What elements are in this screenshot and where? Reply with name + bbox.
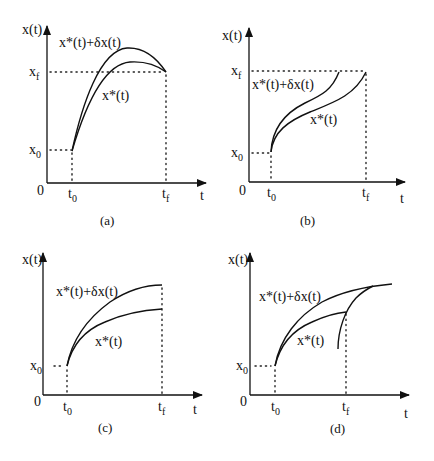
- perturbed-trajectory-label: x*(t)+δx(t): [56, 284, 118, 300]
- tf-label: tf: [342, 399, 350, 417]
- y-axis-label: x(t): [228, 252, 249, 268]
- origin-label: 0: [239, 183, 246, 198]
- y-axis-label: x(t): [222, 28, 243, 44]
- optimal-trajectory-label: x*(t): [297, 333, 325, 349]
- x-axis-label: t: [404, 406, 408, 421]
- panel-caption: (b): [300, 213, 315, 228]
- t0-label: t0: [68, 186, 77, 204]
- optimal-trajectory-label: x*(t): [310, 112, 338, 128]
- x0-label: x0: [231, 145, 243, 163]
- panel-caption: (a): [100, 213, 114, 228]
- xf-label: xf: [231, 63, 242, 81]
- t0-label: t0: [267, 185, 276, 203]
- tf-label: tf: [362, 185, 370, 203]
- panel-d: x(t) t 0 x0 t0 tf x*(t)+δx(t) x*(t) (d): [228, 252, 409, 436]
- panel-b: x(t) t 0 x0 xf t0 tf x*(t)+δx(t) x*(t) (…: [222, 28, 405, 228]
- t0-label: t0: [63, 399, 72, 417]
- panel-a: x(t) t 0 x0 xf t0 tf x*(t)+δx(t) x*(t) (…: [22, 22, 206, 228]
- optimal-trajectory: [72, 62, 166, 151]
- tf-label: tf: [158, 399, 166, 417]
- tf-label: tf: [162, 186, 170, 204]
- perturbed-trajectory-label: x*(t)+δx(t): [252, 77, 314, 93]
- y-axis-label: x(t): [22, 22, 43, 38]
- y-axis-label: x(t): [22, 252, 43, 268]
- origin-label: 0: [34, 394, 41, 409]
- perturbed-trajectory-label: x*(t)+δx(t): [59, 35, 121, 51]
- x0-label: x0: [29, 142, 41, 160]
- x0-label: x0: [236, 358, 248, 376]
- origin-label: 0: [37, 183, 44, 198]
- x-axis-label: t: [193, 402, 197, 417]
- t0-label: t0: [271, 399, 280, 417]
- origin-label: 0: [240, 394, 247, 409]
- panel-caption: (d): [330, 421, 345, 436]
- x-axis-label: t: [200, 188, 204, 203]
- figure-canvas: x(t) t 0 x0 xf t0 tf x*(t)+δx(t) x*(t) (…: [0, 0, 434, 461]
- panel-caption: (c): [98, 420, 112, 435]
- panel-c: x(t) t 0 x0 t0 tf x*(t)+δx(t) x*(t) (c): [22, 252, 202, 435]
- xf-label: xf: [29, 64, 40, 82]
- terminal-curve: [338, 286, 373, 349]
- x-axis-label: t: [400, 191, 404, 206]
- perturbed-trajectory-label: x*(t)+δx(t): [259, 289, 321, 305]
- x0-label: x0: [30, 358, 42, 376]
- optimal-trajectory-label: x*(t): [95, 334, 123, 350]
- optimal-trajectory-label: x*(t): [102, 88, 130, 104]
